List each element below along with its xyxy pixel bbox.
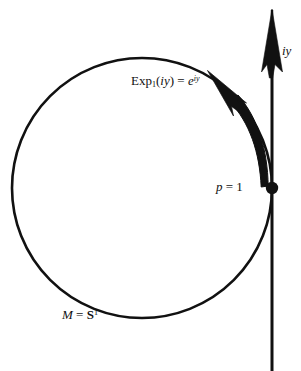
base-point-dot <box>266 182 278 194</box>
base-point-variable: p <box>216 179 223 194</box>
manifold-space: S <box>87 307 94 322</box>
exponential-map-equals: = <box>177 73 184 88</box>
base-point-value: 1 <box>236 179 243 194</box>
base-point-label: p = 1 <box>216 180 243 193</box>
tangent-axis-label: iy <box>282 44 291 57</box>
manifold-equals: = <box>76 307 83 322</box>
tangent-axis-label-text: iy <box>282 43 291 58</box>
exponential-map-argument: iy <box>160 73 169 88</box>
exponential-map-label: Exp1(iy) = eiy <box>131 74 200 87</box>
figure-canvas <box>0 0 301 371</box>
exponential-map-function-name: Exp <box>131 73 152 88</box>
exponential-map-exponent: iy <box>194 74 200 83</box>
base-point-equals: = <box>226 179 233 194</box>
manifold-dimension: 1 <box>94 308 98 317</box>
figure-background <box>0 0 301 371</box>
manifold-variable: M <box>62 307 73 322</box>
figure-root: Exp1(iy) = eiy iy p = 1 M = S1 <box>0 0 301 371</box>
exponential-map-paren-close: ) <box>170 73 174 88</box>
manifold-label: M = S1 <box>62 308 98 321</box>
